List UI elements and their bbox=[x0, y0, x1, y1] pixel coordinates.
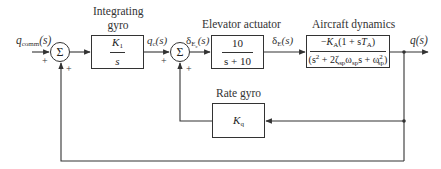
input-label: qcomm(s) bbox=[16, 35, 51, 48]
sum2-plus-left: + bbox=[161, 56, 167, 66]
elevator-actuator-title: Elevator actuator bbox=[202, 19, 281, 31]
output-label: q(s) bbox=[410, 35, 428, 47]
dEc-label: δEc(s) bbox=[186, 35, 209, 49]
integrating-gyro-title: Integrating gyro bbox=[93, 6, 143, 31]
sigma-icon: Σ bbox=[177, 45, 184, 60]
sum1-plus-left: + bbox=[42, 56, 48, 66]
aircraft-dynamics-title: Aircraft dynamics bbox=[312, 19, 395, 31]
aircraft-dynamics-block: −KA(1 + sTA) (s2 + 2ζspωsps + ω2sp) bbox=[306, 35, 390, 68]
rate-gyro-title: Rate gyro bbox=[216, 88, 261, 100]
rate-gyro-block: Kq bbox=[212, 103, 265, 138]
sum2-plus-bottom: + bbox=[186, 64, 192, 74]
integrating-gyro-block: K1 s bbox=[91, 35, 144, 69]
dE-label: δE(s) bbox=[272, 35, 293, 48]
elevator-actuator-block: 10 s + 10 bbox=[211, 35, 264, 69]
rate-to-sum2-arrow bbox=[180, 63, 212, 121]
sum1-plus-bottom: + bbox=[66, 64, 72, 74]
sigma-icon: Σ bbox=[57, 45, 64, 60]
branch-point bbox=[402, 119, 406, 123]
summing-junction-1: Σ bbox=[50, 42, 70, 62]
qc-label: qc(s) bbox=[147, 35, 167, 48]
branch-point bbox=[402, 50, 406, 54]
